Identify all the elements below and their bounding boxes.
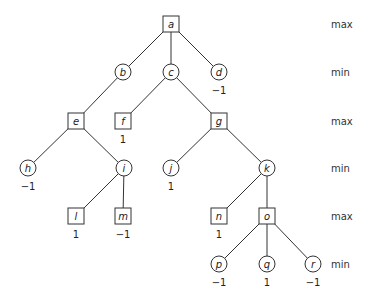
node-o: o	[259, 208, 275, 224]
tree-edges	[28, 24, 313, 264]
node-label: o	[264, 211, 270, 222]
node-value: −1	[21, 181, 36, 192]
node-label: a	[168, 19, 174, 30]
node-value: −1	[212, 277, 227, 288]
node-f: f1	[115, 113, 131, 145]
node-b: b	[115, 64, 131, 80]
node-label: q	[264, 259, 270, 270]
node-p: p−1	[211, 256, 227, 288]
level-label-max: max	[331, 211, 353, 222]
game-tree-diagram: abcd−1ef1gh−1ij1kl1m−1n1op−1q1r−1 maxmin…	[0, 0, 367, 304]
node-r: r−1	[305, 256, 321, 288]
level-labels: maxminmaxminmaxmin	[331, 19, 353, 270]
node-label: n	[216, 211, 222, 222]
node-label: d	[216, 67, 223, 78]
node-value: −1	[212, 85, 227, 96]
node-value: 1	[264, 277, 270, 288]
node-g: g	[211, 113, 227, 129]
node-label: h	[25, 163, 31, 174]
node-n: n1	[211, 208, 227, 240]
node-e: e	[68, 113, 84, 129]
node-d: d−1	[211, 64, 227, 96]
node-q: q1	[259, 256, 275, 288]
node-m: m−1	[115, 208, 131, 240]
level-label-min: min	[331, 163, 350, 174]
node-label: i	[123, 163, 126, 174]
node-value: −1	[116, 229, 131, 240]
node-value: 1	[120, 134, 126, 145]
node-a: a	[163, 16, 179, 32]
level-label-min: min	[331, 259, 350, 270]
node-value: 1	[73, 229, 79, 240]
node-value: 1	[168, 181, 174, 192]
node-h: h−1	[20, 160, 36, 192]
node-c: c	[163, 64, 179, 80]
node-l: l1	[68, 208, 84, 240]
node-k: k	[259, 160, 275, 176]
node-label: b	[120, 67, 126, 78]
level-label-min: min	[331, 67, 350, 78]
node-value: −1	[306, 277, 321, 288]
node-label: m	[118, 211, 128, 222]
node-label: g	[216, 116, 222, 127]
node-label: e	[73, 116, 79, 127]
level-label-max: max	[331, 19, 353, 30]
node-i: i	[116, 160, 132, 176]
node-label: c	[168, 67, 174, 78]
node-label: l	[75, 211, 78, 222]
node-value: 1	[216, 229, 222, 240]
level-label-max: max	[331, 116, 353, 127]
node-label: p	[215, 259, 222, 270]
node-j: j1	[163, 160, 179, 192]
